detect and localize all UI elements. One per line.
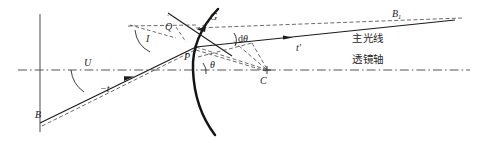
label-angle-theta: θ (210, 60, 215, 70)
label-point-g: G (210, 12, 217, 22)
optical-ray-diagram: B −t U I Q ̇ G P θ dθ C t′ B1 主光线 透镜轴 (0, 0, 478, 141)
diagram-canvas (0, 0, 478, 141)
label-point-q-text: Q (165, 21, 172, 32)
label-angle-dtheta: dθ (238, 34, 248, 44)
label-angle-i: I (146, 34, 149, 44)
label-image-point-b1: B1 (392, 9, 401, 21)
label-point-p: P (184, 52, 190, 62)
label-point-q: Q (165, 22, 172, 32)
label-image-distance: t′ (296, 43, 301, 53)
refracted-ray (196, 20, 455, 47)
construction-line-horizontal-upper (128, 25, 196, 26)
surface-hit-point-dot (195, 46, 198, 49)
label-angle-u: U (84, 58, 91, 68)
label-object-distance: −t (100, 84, 110, 94)
surface-normal-line (168, 13, 232, 56)
construction-line-c-to-q (232, 40, 266, 69)
construction-line-q-down (176, 27, 186, 42)
angle-arc-u (71, 70, 84, 92)
label-image-point-subscript: 1 (398, 13, 401, 20)
label-object-point-b: B (35, 110, 41, 120)
incident-ray (40, 47, 196, 123)
angle-arc-dtheta (234, 33, 236, 46)
label-dtheta-symbol: θ (243, 33, 248, 44)
label-lens-axis: 透镜轴 (352, 54, 384, 65)
normal-to-center (196, 47, 268, 70)
angle-arc-theta (203, 63, 206, 74)
label-principal-ray: 主光线 (352, 33, 384, 44)
construction-line-dtheta-to-c (252, 43, 267, 69)
label-point-c: C (260, 76, 267, 86)
incident-ray-dashed (42, 49, 197, 126)
refracted-ray-arrowhead (283, 36, 293, 40)
